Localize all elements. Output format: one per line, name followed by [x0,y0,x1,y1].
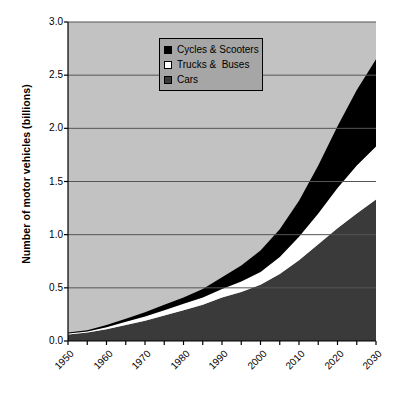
legend-item: Cycles & Scooters [164,42,257,57]
legend-item: Cars [164,72,257,87]
legend-item-label: Cars [177,74,198,85]
legend-item: Trucks & Buses [164,57,257,72]
legend-item-label: Cycles & Scooters [177,44,259,55]
chart-container: Number of motor vehicles (billions) 0.00… [0,0,396,394]
chart-legend: Cycles & ScootersTrucks & BusesCars [159,38,263,91]
legend-item-label: Trucks & Buses [177,59,249,70]
legend-swatch-cycles-icon [164,46,172,54]
legend-swatch-trucks-icon [164,61,172,69]
legend-swatch-cars-icon [164,76,172,84]
